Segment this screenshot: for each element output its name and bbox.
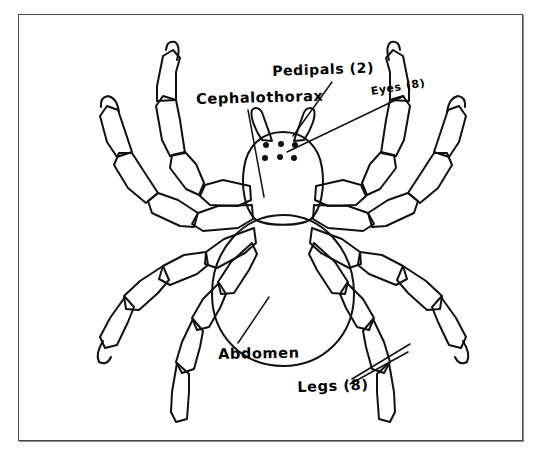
label-abdomen: Abdomen	[218, 346, 300, 362]
label-legs: Legs (8)	[297, 378, 369, 395]
label-pedipals: Pedipals (2)	[272, 60, 374, 78]
label-cephalothorax: Cephalothorax	[196, 89, 324, 107]
figure-page: Cephalothorax Pedipals (2) Eyes (8) Abdo…	[0, 0, 544, 459]
figure-border	[18, 14, 523, 441]
